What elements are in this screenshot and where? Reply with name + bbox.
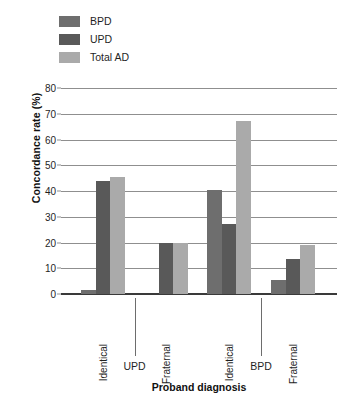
bar [271, 280, 286, 294]
bar [96, 181, 111, 294]
bar [173, 243, 188, 295]
y-axis-tick-label: 40 [45, 186, 56, 197]
bar-chart: BPDUPDTotal AD Concordance rate (%) 0102… [0, 0, 353, 402]
y-axis-tick-label: 30 [45, 211, 56, 222]
bar [222, 224, 237, 294]
x-axis-title: Proband diagnosis [61, 381, 337, 393]
bar [110, 177, 125, 294]
bar [207, 190, 222, 294]
bar [81, 290, 96, 294]
bar [300, 245, 315, 294]
legend-item-label: UPD [90, 34, 112, 45]
legend-item: BPD [59, 15, 129, 28]
legend-swatch-icon [59, 34, 80, 45]
x-axis-category-label: Fraternal [161, 344, 172, 384]
legend-item-label: BPD [90, 16, 112, 27]
chart-legend: BPDUPDTotal AD [59, 15, 129, 64]
y-axis-tick-label: 50 [45, 160, 56, 171]
y-axis-tick-label: 0 [50, 289, 56, 300]
legend-item-label: Total AD [90, 52, 129, 63]
y-axis-title: Concordance rate (%) [30, 33, 44, 263]
group-separator [261, 298, 262, 356]
x-axis-category-label: Fraternal [288, 344, 299, 384]
x-axis-group-label: BPD [250, 360, 272, 372]
group-separator [135, 298, 136, 356]
bars-layer [61, 88, 337, 294]
plot-area: 01020304050607080 [61, 88, 337, 294]
legend-swatch-icon [59, 52, 80, 63]
y-axis-tick-label: 70 [45, 108, 56, 119]
bar [236, 121, 251, 294]
y-axis-tick-label: 80 [45, 83, 56, 94]
x-axis-group-label: UPD [123, 360, 145, 372]
x-axis-category-label: Identical [224, 344, 235, 381]
bar [286, 259, 301, 294]
y-axis-tick-label: 60 [45, 134, 56, 145]
bar [159, 243, 174, 295]
x-axis-labels: IdenticalFraternalIdenticalFraternalUPDB… [61, 296, 337, 356]
y-axis-tick-label: 10 [45, 263, 56, 274]
x-axis-category-label: Identical [98, 344, 109, 381]
legend-item: UPD [59, 33, 129, 46]
y-axis-tick-label: 20 [45, 237, 56, 248]
legend-swatch-icon [59, 16, 80, 27]
legend-item: Total AD [59, 51, 129, 64]
